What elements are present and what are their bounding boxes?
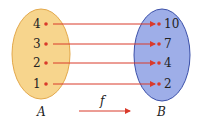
codomain-element: 4: [164, 57, 172, 69]
domain-element: 3: [33, 38, 41, 50]
set-a-label: A: [37, 106, 46, 118]
codomain-element: 10: [164, 18, 179, 30]
codomain-element: 2: [164, 78, 172, 90]
domain-element: 1: [33, 78, 41, 90]
set-b-ellipse: [134, 9, 190, 101]
function-label: f: [100, 95, 104, 107]
codomain-element: 7: [164, 38, 172, 50]
set-b-label: B: [157, 106, 166, 118]
domain-element: 2: [33, 57, 41, 69]
domain-element: 4: [33, 18, 41, 30]
set-a-ellipse: [12, 9, 70, 99]
